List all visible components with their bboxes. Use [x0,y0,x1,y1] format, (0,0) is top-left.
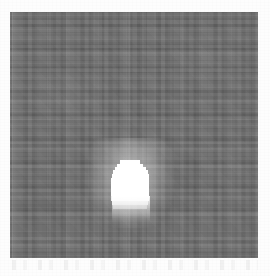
point-source-scanline [120,160,140,164]
point-source-scanline [111,178,149,196]
grayscale-noise-field[interactable] [10,12,258,258]
bright-point-source[interactable] [110,160,152,206]
point-source-scanline [112,201,148,205]
point-source-scanline [115,167,146,170]
noise-layer-coarse [10,12,258,258]
scan-smudge-artifact [12,260,258,270]
left-edge-brightness-band [12,12,18,258]
vertical-column-streak [128,12,131,258]
point-source-scanline [113,205,147,209]
page-root: Grayscale source field [0,0,270,276]
noise-layer-grain [10,12,258,258]
background-mottling [10,12,258,258]
point-source-scanline [117,164,143,167]
point-source-tail [112,196,150,222]
point-source-scanline [111,196,149,201]
noise-layer-fine [10,12,258,258]
point-source-core [110,160,152,206]
point-source-scanline [112,174,149,178]
point-source-glow [88,138,174,228]
point-source-scanline [113,170,148,174]
